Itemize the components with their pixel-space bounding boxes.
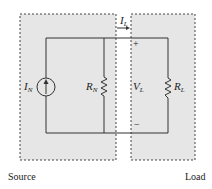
circuit-diagram [0,0,212,189]
source-box [20,14,116,160]
source-label: Source [8,171,36,182]
load-current-label: IL [120,14,128,28]
load-resistor-label: RL [174,80,185,94]
load-voltage-label: VL [133,80,144,94]
load-label: Load [185,171,206,182]
current-source-label: IN [24,80,32,94]
norton-resistor-label: RN [86,80,97,94]
minus-sign: − [134,119,140,130]
plus-sign: + [133,38,139,49]
